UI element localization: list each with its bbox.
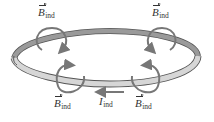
label-i-ind: Iind (99, 96, 113, 109)
b-vector-symbol: B (135, 98, 142, 109)
label-b-ind-top-left: Bind (38, 7, 55, 20)
label-b-ind-bottom-left: Bind (54, 98, 71, 111)
induced-field-diagram: Bind Bind Bind Iind Bind (0, 0, 214, 122)
b-vector-symbol: B (152, 7, 159, 18)
current-loop-ring (14, 31, 198, 84)
b-vector-symbol: B (38, 7, 45, 18)
label-b-ind-bottom-right: Bind (135, 98, 152, 111)
label-b-ind-top-right: Bind (152, 7, 169, 20)
b-vector-symbol: B (54, 98, 61, 109)
